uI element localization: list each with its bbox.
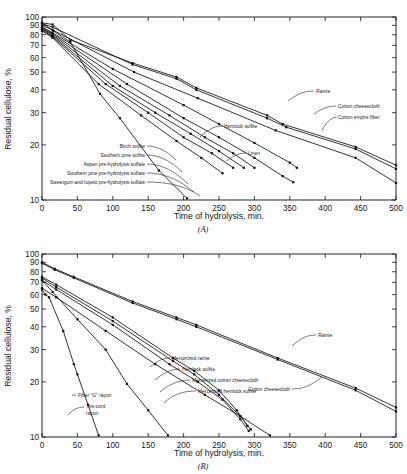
annotation-leader	[155, 369, 180, 380]
x-tick-label: 50	[73, 441, 83, 450]
data-point	[55, 286, 57, 288]
data-point	[195, 324, 197, 326]
x-tick-label: 500	[389, 441, 403, 450]
data-point	[54, 269, 56, 271]
x-tick-label: 0	[40, 204, 45, 213]
data-point	[76, 373, 78, 375]
data-point	[221, 399, 223, 401]
data-point	[183, 117, 185, 119]
data-point	[168, 114, 170, 116]
panel-a-svg: 0501001502002503003504004505001009080706…	[0, 0, 407, 237]
data-point	[195, 326, 197, 328]
data-point	[98, 434, 100, 436]
panel-b-caption: (B)	[198, 462, 209, 471]
data-point	[186, 197, 188, 199]
data-point	[232, 152, 234, 154]
data-point	[197, 97, 199, 99]
data-point	[355, 146, 357, 148]
data-point	[112, 68, 114, 70]
annotation-leader	[322, 117, 336, 131]
panel-b: 0501001502002503003504004505001009080706…	[0, 237, 407, 474]
x-tick-label: 450	[354, 441, 368, 450]
data-point	[99, 93, 101, 95]
series-annotation: Cotton cheesecloth	[338, 104, 380, 109]
data-point	[147, 409, 149, 411]
data-point	[239, 418, 241, 420]
data-point	[119, 117, 121, 119]
data-point	[52, 30, 54, 32]
y-tick-label: 60	[30, 291, 40, 300]
series-line	[42, 280, 249, 431]
data-point	[355, 148, 357, 150]
panel-a-xlabel: Time of hydrolysis, min.	[174, 211, 264, 221]
series-annotation: Birch sulfite	[120, 144, 146, 149]
panel-b-annotations: RamieCotton cheeseclothMercerized ramieH…	[68, 333, 332, 416]
data-point	[52, 23, 54, 25]
data-point	[52, 291, 54, 293]
x-tick-label: 150	[141, 204, 155, 213]
data-point	[132, 302, 134, 304]
x-tick-label: 500	[389, 204, 403, 213]
series-line	[42, 280, 168, 435]
x-tick-label: 350	[283, 204, 297, 213]
y-tick-label: 30	[30, 346, 40, 355]
y-tick-label: 10	[30, 433, 40, 442]
data-point	[253, 167, 255, 169]
y-tick-label: 20	[30, 141, 40, 150]
panel-a: 0501001502002503003504004505001009080706…	[0, 0, 407, 237]
series-annotation: Cotton empire fiber	[338, 115, 380, 120]
data-point	[204, 394, 206, 396]
data-point	[105, 83, 107, 85]
data-point	[218, 394, 220, 396]
data-point	[248, 430, 250, 432]
series-annotation: Linen	[248, 151, 260, 156]
data-point	[158, 169, 160, 171]
data-point	[133, 71, 135, 73]
series-annotation: Tire-cord	[86, 404, 106, 409]
x-tick-label: 150	[141, 441, 155, 450]
data-point	[132, 63, 134, 65]
x-tick-label: 100	[106, 441, 120, 450]
y-tick-label: 50	[30, 68, 40, 77]
panel-b-svg: 0501001502002503003504004505001009080706…	[0, 237, 407, 474]
panel-a-caption: (A)	[198, 225, 209, 234]
data-point	[395, 164, 397, 166]
data-point	[355, 387, 357, 389]
panel-b-ylabel: Residual cellulose, %	[3, 305, 13, 387]
series-annotation: Hemlock sulfite	[224, 124, 257, 129]
data-point	[183, 104, 185, 106]
annotation-leader	[147, 155, 182, 172]
data-point	[105, 349, 107, 351]
data-point	[48, 296, 50, 298]
y-tick-label: 60	[30, 54, 40, 63]
y-tick-label: 40	[30, 86, 40, 95]
data-point	[126, 83, 128, 85]
data-point	[266, 114, 268, 116]
y-tick-label: 70	[30, 41, 40, 50]
y-tick-label: 40	[30, 323, 40, 332]
data-point	[190, 133, 192, 135]
data-point	[175, 318, 177, 320]
annotation-leader	[288, 91, 314, 101]
series-annotation: Hemlock sulfite	[182, 367, 215, 372]
data-point	[282, 175, 284, 177]
x-tick-label: 100	[106, 204, 120, 213]
plot-frame	[42, 254, 396, 437]
data-point	[147, 112, 149, 114]
data-point	[69, 39, 71, 41]
data-point	[168, 363, 170, 365]
series-annotation: Mercerized cotton cheesecloth	[192, 378, 259, 383]
data-point	[395, 168, 397, 170]
series-annotation: Ramie	[318, 333, 332, 338]
data-point	[69, 41, 71, 43]
data-point	[296, 167, 298, 169]
data-point	[62, 330, 64, 332]
data-point	[112, 85, 114, 87]
data-point	[282, 123, 284, 125]
series-annotation: Sweetgum and tupelo pre-hydrolysis sulfa…	[50, 180, 145, 185]
annotation-leader	[160, 380, 190, 392]
series-annotation: rayon	[86, 411, 99, 416]
data-point	[289, 162, 291, 164]
series-annotation: Southern pine pre-hydrolysis sulfate	[67, 171, 145, 176]
data-point	[119, 85, 121, 87]
